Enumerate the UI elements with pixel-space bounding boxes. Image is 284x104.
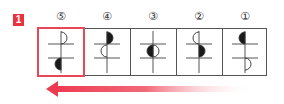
left-arrow-icon: [46, 81, 256, 97]
highlighted-answer-box: [37, 27, 85, 77]
